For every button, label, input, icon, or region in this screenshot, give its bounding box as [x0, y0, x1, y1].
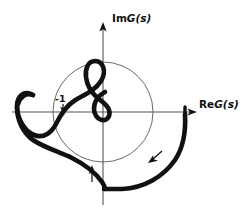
- imaginary-axis-label: ImG(s): [112, 12, 151, 24]
- nyquist-plot-svg: ImG(s) ReG(s) -1: [0, 0, 244, 211]
- critical-point-dot: [61, 110, 65, 114]
- real-axis-label: ReG(s): [199, 98, 239, 110]
- imaginary-axis-label-prefix: Im: [112, 12, 127, 24]
- nyquist-locus-left-hook: [18, 94, 33, 104]
- nyquist-figure: ImG(s) ReG(s) -1: [0, 0, 244, 211]
- nyquist-locus-large-arc: [104, 114, 185, 189]
- large-arc-direction-arrow: [148, 151, 162, 163]
- imaginary-axis-label-function: G(s): [127, 12, 151, 24]
- real-axis-label-prefix: Re: [199, 98, 214, 110]
- critical-point-label: -1: [55, 93, 66, 104]
- real-axis-label-function: G(s): [214, 98, 238, 110]
